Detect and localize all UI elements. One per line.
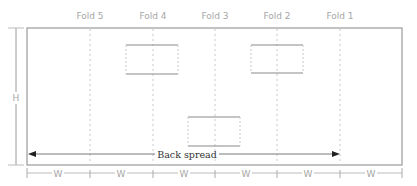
fold-5-label: Fold 5 (76, 11, 103, 21)
height-dimension: H (8, 28, 24, 165)
panel-top-left (126, 45, 178, 74)
fold-4-label: Fold 4 (139, 11, 166, 21)
width-dimension: W W W W W W (27, 168, 402, 179)
arrow-left-icon (28, 151, 36, 157)
arrow-right-icon (332, 151, 340, 157)
fold-2-label: Fold 2 (263, 11, 290, 21)
back-spread-arrow: Back spread (28, 149, 340, 160)
folded-spread-diagram: Fold 5 Fold 4 Fold 3 Fold 2 Fold 1 H (0, 0, 417, 186)
width-label-3: W (180, 169, 189, 179)
width-label-4: W (242, 169, 251, 179)
fold-3-label: Fold 3 (201, 11, 228, 21)
panel-bottom-center (188, 117, 240, 146)
width-label-1: W (54, 169, 63, 179)
width-label-5: W (304, 169, 313, 179)
fold-1-label: Fold 1 (326, 11, 353, 21)
width-label-6: W (367, 169, 376, 179)
back-spread-label: Back spread (157, 149, 217, 160)
height-label: H (13, 93, 20, 103)
width-label-2: W (117, 169, 126, 179)
